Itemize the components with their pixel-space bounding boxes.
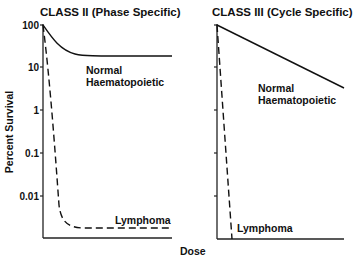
class-ii-lymphoma-label: Lymphoma [115, 214, 171, 226]
tick-label-100: 100 [22, 20, 39, 31]
class-iii-chart: CLASS III (Cycle Specific) Normal Haemat… [212, 6, 353, 239]
class-iii-normal-label-line2: Haematopoietic [258, 94, 336, 106]
class-ii-normal-label-line2: Haematopoietic [86, 76, 164, 88]
x-axis-label: Dose [180, 245, 206, 257]
class-iii-title: CLASS III (Cycle Specific) [212, 6, 353, 18]
tick-label-1: 1 [33, 105, 39, 116]
y-axis-label: Percent Survival [3, 91, 15, 173]
class-ii-normal-curve [43, 25, 172, 56]
figure: CLASS II (Phase Specific) 100 10 1 0.1 0… [0, 0, 353, 260]
tick-label-10: 10 [28, 62, 40, 73]
class-iii-lymphoma-label: Lymphoma [237, 222, 293, 234]
class-ii-title: CLASS II (Phase Specific) [40, 6, 181, 18]
tick-label-0.01: 0.01 [20, 191, 40, 202]
class-iii-lymphoma-line [217, 25, 232, 239]
tick-label-0.1: 0.1 [25, 148, 39, 159]
class-ii-normal-label-line1: Normal [86, 64, 122, 76]
class-ii-chart: CLASS II (Phase Specific) 100 10 1 0.1 0… [20, 6, 181, 238]
class-iii-normal-label-line1: Normal [258, 82, 294, 94]
class-iii-normal-line [217, 25, 344, 88]
